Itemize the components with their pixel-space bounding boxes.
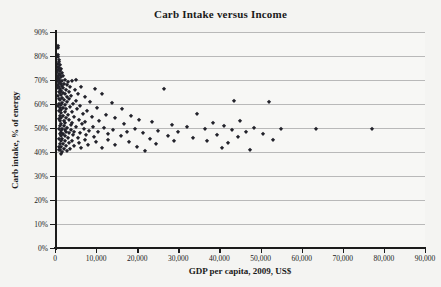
y-tick-mark (50, 176, 56, 177)
y-tick-mark (50, 32, 56, 33)
chart-title: Carb Intake versus Income (0, 8, 441, 20)
y-tick-mark (50, 80, 56, 81)
scatter-point (369, 126, 374, 131)
x-axis-line (54, 247, 426, 249)
x-tick-mark (137, 248, 138, 253)
gridline (55, 200, 425, 201)
y-axis-line (55, 30, 57, 250)
x-tick-mark (425, 248, 426, 253)
x-tick-mark (343, 248, 344, 253)
x-tick-label: 70,000 (332, 254, 353, 263)
chart-screenshot: Carb Intake versus Income 0%10%20%30%40%… (0, 0, 441, 287)
gridline (55, 176, 425, 177)
x-tick-mark (302, 248, 303, 253)
gridline (55, 80, 425, 81)
y-tick-mark (50, 200, 56, 201)
y-tick-mark (50, 224, 56, 225)
y-tick-mark (50, 56, 56, 57)
x-tick-mark (384, 248, 385, 253)
x-tick-mark (178, 248, 179, 253)
x-axis-label: GDP per capita, 2009, US$ (55, 266, 425, 276)
x-tick-mark (261, 248, 262, 253)
scatter-point (87, 99, 92, 104)
y-tick-mark (50, 104, 56, 105)
plot-background (55, 32, 425, 248)
x-tick-mark (96, 248, 97, 253)
x-tick-label: 10,000 (86, 254, 107, 263)
gridline (55, 32, 425, 33)
y-tick-mark (50, 128, 56, 129)
y-tick-mark (50, 152, 56, 153)
x-tick-mark (219, 248, 220, 253)
x-tick-label: 0 (53, 254, 57, 263)
y-axis-label: Carb intake, % of energy (6, 32, 24, 248)
x-tick-label: 20,000 (127, 254, 148, 263)
x-tick-label: 50,000 (250, 254, 271, 263)
scatter-point (89, 114, 94, 119)
x-tick-label: 40,000 (209, 254, 230, 263)
scatter-point (105, 137, 110, 142)
gridline (55, 152, 425, 153)
gridline (55, 224, 425, 225)
x-tick-label: 90,000 (415, 254, 436, 263)
x-tick-label: 60,000 (291, 254, 312, 263)
x-tick-mark (55, 248, 56, 253)
x-tick-label: 30,000 (168, 254, 189, 263)
plot-area (55, 32, 425, 248)
gridline (55, 56, 425, 57)
x-tick-label: 80,000 (374, 254, 395, 263)
